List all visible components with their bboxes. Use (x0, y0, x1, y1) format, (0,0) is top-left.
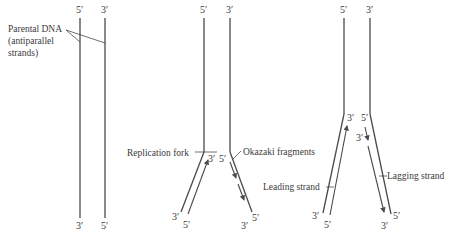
p3-top-right-label: 3′ (366, 4, 373, 15)
parental-pointer-right (66, 30, 105, 43)
p3-bottom-left-inner-label: 5′ (324, 219, 331, 230)
parental-dna-label: Parental DNA (8, 24, 62, 34)
panel-extended-fork: 5′ 3′ 3′ 5′ 3′ 3′ 5′ 3′ 5′ Leading stran… (263, 4, 445, 231)
lagging-strand-label: Lagging strand (387, 171, 445, 181)
p2-strand-right-branch (230, 152, 252, 212)
leading-strand-label: Leading strand (263, 182, 320, 192)
p3-bottom-right-inner-label: 3′ (381, 220, 388, 231)
p2-fork-left-inner-label: 3′ (208, 153, 215, 164)
p1-top-right-label: 3′ (101, 4, 108, 15)
p3-bottom-left-outer-label: 3′ (312, 210, 319, 221)
okazaki-fragments-label: Okazaki fragments (243, 147, 315, 157)
p1-bottom-right-label: 5′ (101, 220, 108, 231)
p2-top-right-label: 3′ (226, 4, 233, 15)
okazaki-pointer (232, 151, 241, 160)
p3-right-new-label: 3′ (356, 132, 363, 143)
p2-bottom-left-inner-label: 5′ (183, 219, 190, 230)
p3-top-left-label: 5′ (340, 4, 347, 15)
p2-bottom-right-outer-label: 5′ (252, 212, 259, 223)
p3-fork-right-inner-label: 5′ (361, 112, 368, 123)
p1-top-left-label: 5′ (76, 4, 83, 15)
p1-bottom-left-label: 3′ (76, 220, 83, 231)
p2-bottom-left-outer-label: 3′ (172, 211, 179, 222)
p3-bottom-right-outer-label: 5′ (393, 210, 400, 221)
parental-dna-label-line2: (antiparallel (8, 36, 54, 47)
dna-replication-diagram: 5′ 3′ 3′ 5′ Parental DNA (antiparallel s… (0, 0, 449, 232)
parental-dna-label-line3: strands) (8, 48, 38, 59)
p3-lagging-fragment-1 (365, 127, 368, 140)
p2-fork-right-inner-label: 5′ (219, 153, 226, 164)
p3-lagging-new (368, 146, 384, 212)
p2-top-left-label: 5′ (200, 4, 207, 15)
panel-fork-opening: 5′ 3′ 3′ 5′ 3′ 5′ 3′ 5′ Replication fork… (127, 4, 315, 231)
p3-fork-left-inner-label: 3′ (347, 112, 354, 123)
panel-parental: 5′ 3′ 3′ 5′ Parental DNA (antiparallel s… (8, 4, 108, 231)
replication-fork-label: Replication fork (127, 148, 189, 158)
p2-bottom-right-inner-label: 3′ (241, 220, 248, 231)
parental-pointer-left (66, 30, 80, 42)
